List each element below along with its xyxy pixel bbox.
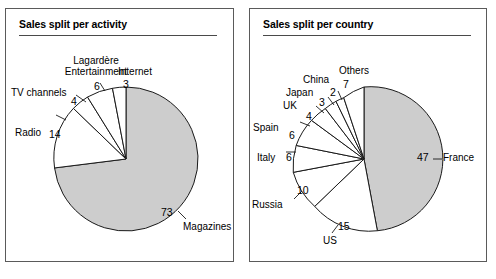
leader-line-lagardere [100, 83, 105, 91]
pie-value-france: 47 [417, 152, 429, 163]
pie-label-others: Others [339, 65, 369, 76]
pie-value-spain: 6 [289, 130, 295, 141]
pie-value-magazines: 73 [161, 207, 173, 218]
panel-sales-split-per-activity: Sales split per activity Lagardère Enter… [5, 8, 234, 262]
pie-value-russia: 10 [297, 185, 309, 196]
pie-label-italy: Italy [257, 152, 275, 163]
pie-value-radio: 14 [49, 129, 61, 140]
pie-label-radio: Radio [15, 127, 41, 138]
pie-value-tv-channels: 4 [71, 96, 77, 107]
panel-sales-split-per-country: Sales split per country [249, 8, 487, 262]
leader-line-magazines [178, 211, 186, 219]
pie-label-internet: Internet [118, 66, 152, 77]
pie-value-japan: 3 [319, 97, 325, 108]
pie-label-china: China [303, 74, 329, 85]
pie-label-spain: Spain [253, 122, 279, 133]
pie-label-us: US [323, 235, 337, 246]
pie-label-uk: UK [283, 100, 297, 111]
pie-label-japan: Japan [286, 87, 313, 98]
pie-chart-country [250, 9, 488, 263]
pie-svg-country [250, 9, 488, 263]
pie-label-lagardere-line1: Lagardère [73, 55, 119, 66]
pie-value-lagardere: 6 [94, 81, 100, 92]
leader-line-radio [56, 115, 66, 120]
pie-label-tv-channels: TV channels [11, 87, 67, 98]
pie-value-internet: 3 [123, 79, 129, 90]
pie-label-magazines: Magazines [183, 221, 231, 232]
pie-value-italy: 6 [286, 152, 292, 163]
pie-slice-france[interactable] [364, 87, 443, 231]
pie-value-uk: 4 [306, 111, 312, 122]
pie-value-china: 2 [330, 87, 336, 98]
pie-value-us: 15 [338, 221, 350, 232]
pie-value-others: 7 [343, 79, 349, 90]
pie-label-russia: Russia [252, 199, 283, 210]
leader-line-china [338, 91, 342, 100]
pie-label-france: France [443, 152, 474, 163]
